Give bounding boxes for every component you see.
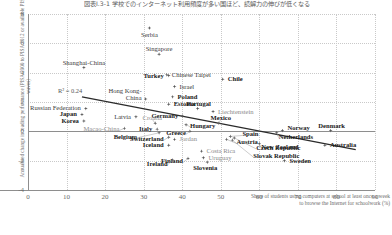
x-axis-line: [0, 190, 375, 191]
chart-title-japanese: 図表Ⅰ.3-1 学校でのインターネット利用頻度が多い国ほど、読解力の伸びが低くな…: [84, 0, 392, 10]
x-axis-title-line1: Share of students using computers at sch…: [251, 193, 390, 199]
chart-root: 図表Ⅰ.3-1 学校でのインターネット利用頻度が多い国ほど、読解力の伸びが低くな…: [0, 0, 392, 235]
x-tick-20: 20: [92, 193, 118, 201]
x-tick-10: 10: [54, 193, 80, 201]
plot-area: 8 6 4 2 0 -2 -4 0 10 20 30 40 50 60 70 8…: [28, 14, 375, 190]
x-tick-0: 0: [15, 193, 41, 201]
x-axis-title-line2: to browse the Internet for schoolwork (%…: [299, 200, 390, 206]
x-axis-title: Share of students using computers at sch…: [150, 193, 390, 207]
gridline-x-90: [375, 14, 376, 190]
leader-lines: [28, 14, 375, 190]
